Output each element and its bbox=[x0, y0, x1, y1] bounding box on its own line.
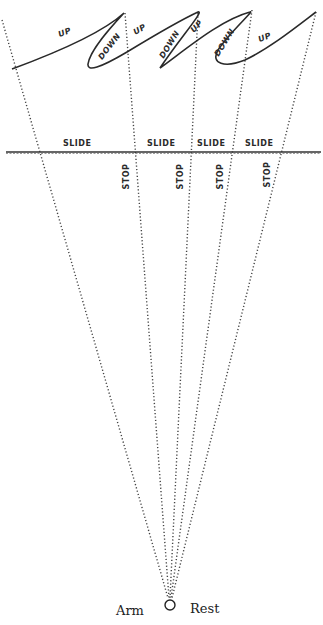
slide-label-4: SLIDE bbox=[245, 139, 273, 148]
stop-label-1: STOP bbox=[122, 164, 131, 190]
radial-line-2 bbox=[125, 13, 169, 598]
stop-label-3: STOP bbox=[216, 164, 225, 190]
arm-movement-diagram: UP DOWN UP DOWN UP DOWN UP SLIDE SLIDE S… bbox=[0, 0, 323, 625]
stop-label-4: STOP bbox=[263, 162, 272, 188]
slide-label-1: SLIDE bbox=[63, 139, 91, 148]
pivot-circle bbox=[165, 600, 175, 610]
radial-dotted-lines bbox=[2, 10, 316, 598]
radial-line-4 bbox=[171, 10, 252, 598]
radial-line-3 bbox=[170, 13, 198, 598]
radial-line-5 bbox=[172, 12, 316, 598]
stroke-curve bbox=[12, 12, 316, 69]
radial-line-1 bbox=[2, 20, 168, 598]
diagram-svg bbox=[0, 0, 323, 625]
arm-label: Arm bbox=[116, 603, 144, 618]
slide-label-3: SLIDE bbox=[197, 139, 225, 148]
rest-label: Rest bbox=[190, 601, 219, 616]
stop-label-2: STOP bbox=[176, 164, 185, 190]
slide-label-2: SLIDE bbox=[147, 139, 175, 148]
